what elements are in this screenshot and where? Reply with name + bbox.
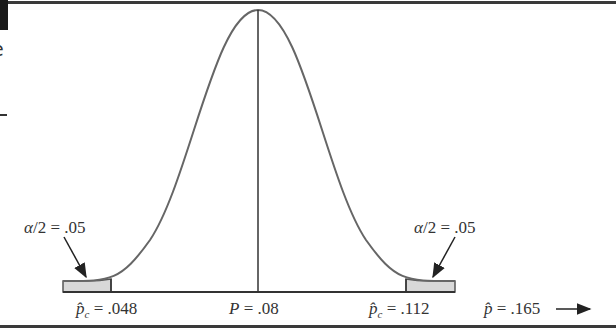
- normal-curve-diagram: [0, 0, 616, 332]
- sample-label: p̂ = .165: [484, 299, 540, 319]
- left-tail-label: α/2 = .05: [24, 218, 86, 238]
- left-tail-arrow: [64, 237, 86, 277]
- bell-curve: [63, 10, 455, 281]
- upper-critical-label: p̂c = .112: [369, 299, 430, 320]
- center-label: P = .08: [229, 299, 279, 319]
- right-tail-label: α/2 = .05: [414, 218, 476, 238]
- right-tail-arrow: [433, 237, 455, 277]
- lower-critical-label: p̂c = .048: [76, 299, 137, 320]
